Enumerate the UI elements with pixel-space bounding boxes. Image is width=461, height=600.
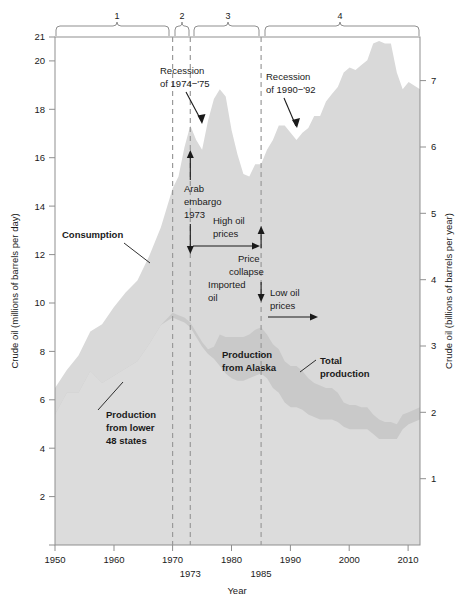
xlabel-1973: 1973 [180,568,201,579]
xlabel-1950: 1950 [44,554,65,565]
x-axis-labels: 1950 1960 1970 1980 1990 2000 2010 1973 … [44,554,418,579]
low-oil-line1: Low oil [270,287,300,298]
xlabel-1985: 1985 [251,568,272,579]
ylabel-left-12: 12 [34,249,45,260]
recession-1990-line2: of 1990−'92 [266,84,316,95]
low-oil-line2: prices [270,300,296,311]
phase-brackets-group [56,22,419,36]
xlabel-2000: 2000 [339,554,360,565]
ylabel-left-8: 8 [40,346,45,357]
xlabel-1960: 1960 [103,554,124,565]
ylabel-right-1: 1 [431,473,436,484]
alaska-line2: from Alaska [222,362,277,373]
phase-number-1: 1 [114,11,119,21]
consumption-label: Consumption [62,229,123,240]
phase-numbers-group: 1 2 3 4 [114,11,342,21]
xlabel-1990: 1990 [280,554,301,565]
total-production-line2: production [320,368,370,379]
y-axis-right-ticks [420,81,426,479]
embargo-line1: Arab [184,183,204,194]
phase-number-4: 4 [337,11,342,21]
ylabel-right-5: 5 [431,208,436,219]
high-oil-line1: High oil [213,215,245,226]
y-axis-right-labels: 1 2 3 4 5 6 7 [431,75,436,484]
ylabel-left-14: 14 [34,201,45,212]
collapse-line2: collapse [229,266,264,277]
phase-number-3: 3 [225,11,230,21]
ylabel-left-6: 6 [40,394,45,405]
ylabel-right-2: 2 [431,407,436,418]
ylabel-left-20: 20 [34,55,45,66]
xlabel-2010: 2010 [398,554,419,565]
recession-1974-line2: of 1974−'75 [160,78,210,89]
lower48-line1: Production [106,409,156,420]
ylabel-left-16: 16 [34,152,45,163]
collapse-line1: Price [238,253,260,264]
embargo-line3: 1973 [184,209,205,220]
alaska-line1: Production [222,349,272,360]
x-axis-title: Year [227,585,246,596]
ylabel-right-6: 6 [431,141,436,152]
ylabel-left-2: 2 [40,491,45,502]
ylabel-right-4: 4 [431,274,436,285]
embargo-line2: embargo [184,196,222,207]
phase-bracket-4 [265,22,419,36]
imported-oil-line1: Imported [208,279,246,290]
lower48-line2: from lower [106,422,155,433]
phase-bracket-1 [56,22,169,36]
imported-oil-line2: oil [208,292,218,303]
x-axis-ticks [55,545,408,551]
ylabel-right-7: 7 [431,75,436,86]
recession-1990-line1: Recession [266,71,310,82]
phase-number-2: 2 [179,11,184,21]
ylabel-left-10: 10 [34,297,45,308]
lower48-line3: 48 states [106,435,147,446]
ylabel-left-4: 4 [40,443,45,454]
ylabel-left-18: 18 [34,104,45,115]
oil-consumption-production-chart: 1 2 3 4 2 4 6 8 10 12 14 16 18 20 21 [0,0,461,600]
xlabel-1980: 1980 [221,554,242,565]
recession-1974-line1: Recession [160,65,204,76]
y-axis-left-labels: 2 4 6 8 10 12 14 16 18 20 21 [34,31,45,502]
xlabel-1970: 1970 [162,554,183,565]
phase-bracket-2 [175,22,189,36]
y-axis-title-left: Crude oil (millions of barrels per day) [9,213,20,368]
ylabel-right-3: 3 [431,340,436,351]
ylabel-left-21: 21 [34,31,45,42]
y-axis-left-ticks [49,37,55,545]
phase-bracket-3 [194,22,259,36]
figure-container: 1 2 3 4 2 4 6 8 10 12 14 16 18 20 21 [0,0,461,600]
total-production-line1: Total [320,355,342,366]
y-axis-title-right: Crude oil (billions of barrels per year) [443,213,454,369]
high-oil-line2: prices [213,228,239,239]
